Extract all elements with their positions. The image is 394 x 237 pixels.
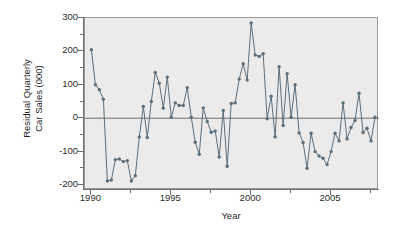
data-point xyxy=(313,150,316,153)
data-point xyxy=(186,86,189,89)
y-tick--200 xyxy=(78,184,83,185)
data-point xyxy=(110,178,113,181)
y-tick-label--200: -200 xyxy=(59,179,78,189)
data-point xyxy=(106,179,109,182)
data-point xyxy=(321,157,324,160)
chart-figure: 3002001000-100-200 1990199520002005 Resi… xyxy=(0,0,394,237)
y-tick-minor xyxy=(80,134,83,135)
data-point xyxy=(305,167,308,170)
data-point xyxy=(102,97,105,100)
data-point xyxy=(226,165,229,168)
data-point xyxy=(230,102,233,105)
x-tick-minor xyxy=(210,190,211,193)
x-axis-line xyxy=(84,189,379,190)
data-point xyxy=(261,52,264,55)
x-tick-label-2000: 2000 xyxy=(230,192,270,203)
data-point xyxy=(337,139,340,142)
data-point xyxy=(130,179,133,182)
data-point xyxy=(361,131,364,134)
x-tick-label-1990: 1990 xyxy=(70,192,110,203)
data-point xyxy=(297,131,300,134)
data-point xyxy=(317,154,320,157)
x-tick-label-1995: 1995 xyxy=(150,192,190,203)
data-point xyxy=(234,101,237,104)
data-point xyxy=(333,132,336,135)
data-point xyxy=(218,155,221,158)
data-point xyxy=(269,94,272,97)
y-tick-label-300: 300 xyxy=(62,12,78,22)
data-point xyxy=(329,150,332,153)
data-point xyxy=(293,83,296,86)
data-point xyxy=(134,174,137,177)
y-tick-label-100: 100 xyxy=(62,79,78,89)
x-tick-minor xyxy=(130,190,131,193)
data-point xyxy=(150,100,153,103)
data-point-markers xyxy=(90,21,377,182)
data-point xyxy=(373,115,376,118)
data-point xyxy=(198,153,201,156)
y-axis-line xyxy=(83,17,84,190)
y-tick-300 xyxy=(78,17,83,18)
x-tick-minor xyxy=(290,190,291,193)
data-point xyxy=(202,106,205,109)
data-point xyxy=(249,21,252,24)
y-tick-label-0: 0 xyxy=(73,112,78,122)
data-point xyxy=(194,141,197,144)
data-point xyxy=(222,109,225,112)
y-tick-label-200: 200 xyxy=(62,45,78,55)
data-point xyxy=(237,77,240,80)
data-point xyxy=(90,48,93,51)
data-point xyxy=(357,91,360,94)
data-series-plot xyxy=(85,18,379,190)
data-point xyxy=(138,135,141,138)
data-point xyxy=(369,139,372,142)
data-point xyxy=(158,81,161,84)
x-tick-label-2005: 2005 xyxy=(310,192,350,203)
data-point xyxy=(206,120,209,123)
data-point xyxy=(257,55,260,58)
data-point xyxy=(345,137,348,140)
data-point xyxy=(301,141,304,144)
data-point xyxy=(114,158,117,161)
y-tick-minor xyxy=(80,167,83,168)
data-point xyxy=(182,104,185,107)
x-tick-minor xyxy=(370,190,371,193)
y-tick-minor xyxy=(80,67,83,68)
data-point xyxy=(174,101,177,104)
data-point xyxy=(289,115,292,118)
data-point xyxy=(281,124,284,127)
data-point xyxy=(265,117,268,120)
data-line xyxy=(91,23,375,181)
data-point xyxy=(118,157,121,160)
x-axis-title: Year xyxy=(84,210,378,221)
data-point xyxy=(353,119,356,122)
y-tick-minor xyxy=(80,101,83,102)
y-tick-minor xyxy=(80,34,83,35)
data-point xyxy=(154,71,157,74)
data-point xyxy=(94,83,97,86)
y-tick-label--100: -100 xyxy=(59,146,78,156)
data-point xyxy=(253,53,256,56)
data-point xyxy=(273,135,276,138)
data-point xyxy=(170,115,173,118)
data-point xyxy=(285,72,288,75)
data-point xyxy=(365,127,368,130)
data-point xyxy=(178,104,181,107)
y-tick-0 xyxy=(78,117,83,118)
data-point xyxy=(277,65,280,68)
data-point xyxy=(245,78,248,81)
y-axis-title: Residual Quarterly Car Sales (000) xyxy=(21,24,44,174)
data-point xyxy=(349,126,352,129)
data-point xyxy=(98,88,101,91)
plot-panel xyxy=(84,17,378,189)
data-point xyxy=(210,131,213,134)
data-point xyxy=(162,106,165,109)
data-point xyxy=(166,75,169,78)
data-point xyxy=(142,105,145,108)
data-point xyxy=(146,136,149,139)
data-point xyxy=(241,62,244,65)
y-tick--100 xyxy=(78,151,83,152)
y-tick-200 xyxy=(78,50,83,51)
data-point xyxy=(325,163,328,166)
data-point xyxy=(190,115,193,118)
